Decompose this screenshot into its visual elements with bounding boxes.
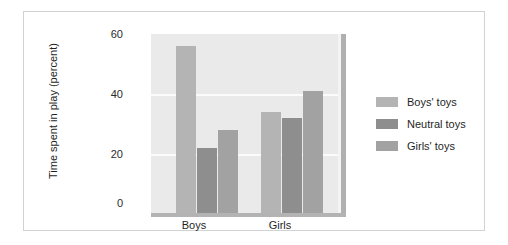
y-tick-label-0: 0 xyxy=(93,198,123,209)
legend-swatch-neutral-toys xyxy=(376,119,398,129)
figure-frame: Time spent in play (percent) 60 40 20 0 … xyxy=(23,11,485,231)
legend-swatch-boys-toys xyxy=(376,97,398,107)
y-axis-label: Time spent in play (percent) xyxy=(47,21,59,201)
legend-swatch-girls-toys xyxy=(376,141,398,151)
x-axis-baseline xyxy=(151,213,346,217)
plot-area xyxy=(151,34,343,214)
x-tick-label-boys: Boys xyxy=(159,219,229,231)
bar-girls-boystoys xyxy=(261,112,281,214)
legend-label-neutral-toys: Neutral toys xyxy=(407,118,466,130)
legend-label-girls-toys: Girls' toys xyxy=(407,140,455,152)
y-tick-label-20: 20 xyxy=(93,149,123,160)
bar-girls-neutraltoys xyxy=(282,118,302,214)
legend-item-boys-toys: Boys' toys xyxy=(376,92,504,112)
y-tick-label-60: 60 xyxy=(93,29,123,40)
bar-girls-girlstoys xyxy=(303,91,323,214)
chart-legend: Boys' toys Neutral toys Girls' toys xyxy=(376,92,504,158)
legend-item-girls-toys: Girls' toys xyxy=(376,136,504,156)
bar-boys-neutraltoys xyxy=(197,148,217,214)
legend-item-neutral-toys: Neutral toys xyxy=(376,114,504,134)
x-tick-label-girls: Girls xyxy=(245,219,315,231)
bar-boys-boystoys xyxy=(176,46,196,214)
legend-label-boys-toys: Boys' toys xyxy=(407,96,457,108)
y-tick-label-40: 40 xyxy=(93,89,123,100)
bar-boys-girlstoys xyxy=(218,130,238,214)
chart-figure: Time spent in play (percent) 60 40 20 0 … xyxy=(0,0,508,245)
plot-panel-right-edge xyxy=(341,34,346,217)
